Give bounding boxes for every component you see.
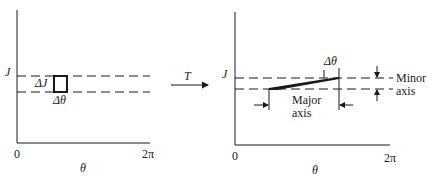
major-axis-label-line1: Major — [292, 94, 321, 106]
right-cell-width-label: Δθ — [324, 55, 337, 67]
left-x-axis-label: θ — [80, 162, 86, 174]
left-x-start-label: 0 — [14, 148, 20, 160]
left-cell-width-label: Δθ — [53, 94, 66, 106]
minor-axis-label-line1: Minor — [396, 72, 426, 84]
major-axis-label-line2: axis — [292, 107, 311, 119]
phase-cell-square — [54, 76, 67, 92]
right-x-axis-label: θ — [312, 164, 318, 176]
diagram-canvas — [0, 0, 429, 179]
right-panel-dashed-bounds — [235, 78, 393, 89]
right-x-end-label: 2π — [384, 152, 396, 164]
sheared-phase-cell — [269, 78, 339, 89]
left-x-end-label: 2π — [142, 148, 154, 160]
right-y-axis-label: J — [222, 68, 227, 80]
left-y-axis-label: J — [5, 66, 10, 78]
transform-label: T — [184, 70, 191, 82]
delta-theta-ticks — [324, 68, 339, 78]
minor-axis-label-line2: axis — [396, 85, 415, 97]
left-cell-height-label: ΔJ — [35, 77, 47, 89]
right-x-start-label: 0 — [232, 150, 238, 162]
